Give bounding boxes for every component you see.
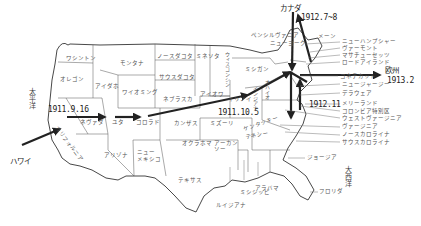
state-north-carolina: ノースカロライナ xyxy=(342,132,390,138)
state-south-dakota: サウスダコタ xyxy=(159,75,195,81)
state-north-dakota: ノースダコタ xyxy=(157,54,193,60)
state-pennsylvania: ペンシルヴァニア xyxy=(251,33,299,39)
state-montana: モンタナ xyxy=(120,61,144,67)
state-minnesota: ミネソタ xyxy=(196,54,220,60)
ocean-label-atlantic: 大西洋 xyxy=(344,166,351,187)
state-new-mexico-2: メキシコ xyxy=(137,157,161,163)
state-new-york: ニューヨーク xyxy=(270,41,306,47)
state-arizona: アリゾナ xyxy=(104,153,128,159)
state-utah: ユタ xyxy=(112,120,124,126)
place-hawaii: ハワイ xyxy=(10,158,31,166)
state-maine: メーン xyxy=(318,34,336,40)
state-borders xyxy=(58,44,306,176)
ocean-label-pacific: 太平洋 xyxy=(28,88,35,109)
date-1913-2: 1913.2 xyxy=(387,77,414,85)
state-georgia: ジョージア xyxy=(307,155,337,161)
state-kansas: カンザス xyxy=(174,121,198,127)
state-oregon: オレゴン xyxy=(60,77,84,83)
state-wyoming: ワイオミング xyxy=(122,90,158,96)
state-texas: テキサス xyxy=(178,178,202,184)
state-iowa: アイオワ xyxy=(200,92,224,98)
date-1912-11: 1912.11 xyxy=(309,101,341,109)
state-dc: コロンビア特別区 xyxy=(342,109,390,115)
state-rhode-island: ロードアイランド xyxy=(342,60,390,66)
state-connecticut: コネチカット xyxy=(340,74,376,80)
leader-lines xyxy=(230,42,340,192)
state-missouri: ミズーリ xyxy=(210,121,234,127)
state-louisiana: ルイジアナ xyxy=(216,203,246,209)
state-colorado: コロラド xyxy=(136,120,160,126)
state-south-carolina: サウスカロライナ xyxy=(342,140,390,146)
state-new-hampshire: ニューハンプシャー xyxy=(342,39,396,45)
state-washington: ワシントン xyxy=(66,56,96,62)
state-wisconsin: ウィスコンシン xyxy=(224,52,229,87)
state-maryland: メリーランド xyxy=(342,101,378,107)
state-vermont: ヴァーモント xyxy=(342,46,378,52)
state-virginia: ヴァージニア xyxy=(342,124,378,130)
state-illinois: イリノイ xyxy=(228,97,252,103)
state-oklahoma: オクラホマ xyxy=(182,141,212,147)
state-alabama: アラバマ xyxy=(255,186,279,192)
state-idaho: アイダホ xyxy=(95,84,119,90)
state-new-jersey: ニュージャージー xyxy=(342,82,390,88)
state-new-mexico-1: ニュー xyxy=(137,150,155,156)
date-1912-7-8: 1912.7~8 xyxy=(301,14,337,22)
state-delaware: デラウェア xyxy=(342,91,372,97)
state-west-virginia: ウェストヴァージニア xyxy=(342,116,402,122)
state-nebraska: ネブラスカ xyxy=(163,97,193,103)
date-1911-9-16: 1911.9.16 xyxy=(48,106,89,114)
state-florida: フロリダ xyxy=(319,189,343,195)
state-ohio: オハイオ xyxy=(264,80,269,100)
state-michigan: ミシガン xyxy=(245,67,269,73)
state-indiana: インジアナ xyxy=(252,86,257,111)
state-massachusetts: マサチューセッツ xyxy=(342,53,390,59)
state-nevada: ネヴァダ xyxy=(80,120,104,126)
place-europe: 欧州 xyxy=(385,67,399,75)
state-arkansas-2: ソー xyxy=(214,147,226,153)
place-canada: カナダ xyxy=(280,5,301,13)
